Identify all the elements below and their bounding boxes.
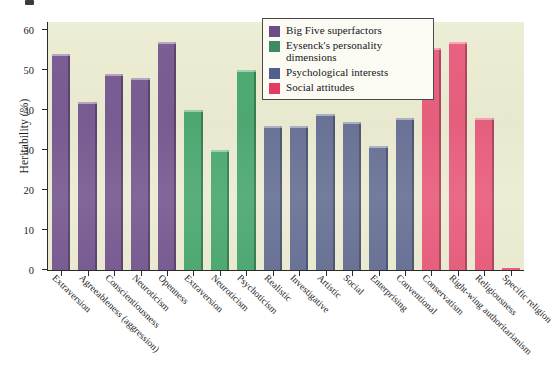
bar-top-highlight — [78, 102, 97, 104]
bar-top-highlight — [184, 110, 203, 112]
y-axis-tick: 0 — [42, 269, 48, 270]
bar-top-highlight — [105, 74, 124, 76]
bar-shadow-edge — [386, 146, 388, 270]
y-axis-tick-label: 60 — [24, 25, 35, 36]
bar-top-highlight — [396, 118, 415, 120]
figure-number-artifact — [25, 0, 34, 5]
legend-item: Social attitudes — [269, 81, 426, 94]
y-axis-tick-label: 0 — [29, 265, 34, 276]
bar-top-highlight — [449, 42, 468, 44]
bar-shadow-edge — [227, 150, 229, 270]
bar — [105, 74, 124, 270]
bar-top-highlight — [475, 118, 494, 120]
legend-label: Eysenck's personality dimensions — [286, 39, 426, 64]
bar-shadow-edge — [121, 74, 123, 270]
y-axis-tick-label: 20 — [24, 185, 35, 196]
bar-shadow-edge — [148, 78, 150, 270]
bar — [396, 118, 415, 270]
bar-top-highlight — [131, 78, 150, 80]
y-axis-tick-label: 40 — [24, 105, 35, 116]
bar-shadow-edge — [68, 54, 70, 270]
bar-top-highlight — [158, 42, 177, 44]
bar — [158, 42, 177, 270]
y-axis-tick: 30 — [42, 149, 48, 150]
y-axis-tick: 40 — [42, 109, 48, 110]
legend-label: Social attitudes — [286, 81, 354, 93]
bar-shadow-edge — [492, 118, 494, 270]
bar-top-highlight — [52, 54, 71, 56]
bar-top-highlight — [290, 126, 309, 128]
bar — [264, 126, 283, 270]
legend-swatch — [269, 68, 280, 79]
bar-shadow-edge — [201, 110, 203, 270]
bar — [184, 110, 203, 270]
y-axis-tick: 50 — [42, 69, 48, 70]
bar-top-highlight — [369, 146, 388, 148]
x-axis-category-labels: ExtraversionAgreeableness (aggression)Co… — [47, 272, 531, 369]
bar — [343, 122, 362, 270]
bar-top-highlight — [343, 122, 362, 124]
bar — [237, 70, 256, 270]
legend-label: Big Five superfactors — [286, 24, 382, 36]
bar — [316, 114, 335, 270]
legend-item: Eysenck's personality dimensions — [269, 39, 426, 64]
bar — [211, 150, 230, 270]
bar-shadow-edge — [412, 118, 414, 270]
bar-top-highlight — [211, 150, 230, 152]
legend-swatch — [269, 83, 280, 94]
bar-top-highlight — [237, 70, 256, 72]
bar — [449, 42, 468, 270]
x-axis-label: Social — [341, 272, 366, 297]
legend-swatch — [269, 41, 280, 52]
bar-shadow-edge — [439, 48, 441, 270]
y-axis-tick: 10 — [42, 229, 48, 230]
y-axis-tick-label: 50 — [24, 65, 35, 76]
y-axis-tick-label: 10 — [24, 225, 35, 236]
y-axis-tick: 20 — [42, 189, 48, 190]
y-axis-tick-label: 30 — [24, 145, 35, 156]
bar-shadow-edge — [95, 102, 97, 270]
bar — [290, 126, 309, 270]
legend-label: Psychological interests — [286, 66, 388, 78]
bar-shadow-edge — [280, 126, 282, 270]
bar-top-highlight — [264, 126, 283, 128]
bar — [475, 118, 494, 270]
bar-shadow-edge — [306, 126, 308, 270]
legend-item: Psychological interests — [269, 66, 426, 79]
chart-legend: Big Five superfactorsEysenck's personali… — [262, 18, 434, 100]
bar — [131, 78, 150, 270]
bar-shadow-edge — [359, 122, 361, 270]
bar-top-highlight — [316, 114, 335, 116]
bar — [52, 54, 71, 270]
bar-shadow-edge — [174, 42, 176, 270]
bar — [369, 146, 388, 270]
bar — [78, 102, 97, 270]
bar-shadow-edge — [465, 42, 467, 270]
y-axis-tick: 60 — [42, 29, 48, 30]
legend-swatch — [269, 26, 280, 37]
legend-item: Big Five superfactors — [269, 24, 426, 37]
bar-shadow-edge — [254, 70, 256, 270]
bar-shadow-edge — [333, 114, 335, 270]
